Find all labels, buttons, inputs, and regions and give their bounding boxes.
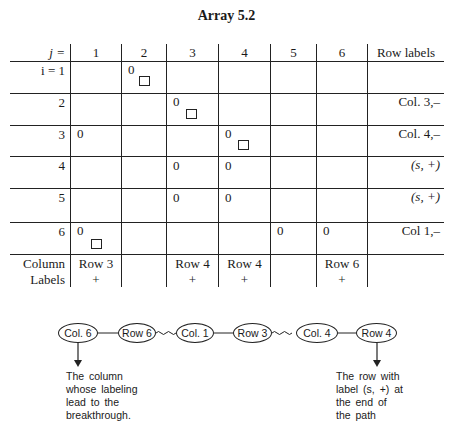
- end-note-line: the end of: [336, 396, 403, 409]
- start-note-line: breakthrough.: [66, 409, 137, 422]
- end-note: The row with label (s, +) at the end of …: [336, 370, 403, 422]
- end-note-line: label (s, +) at: [336, 383, 403, 396]
- path-node-row-4: Row 4: [356, 323, 397, 343]
- path-node-col-4: Col. 4: [296, 323, 338, 343]
- start-note-line: whose labeling: [66, 383, 137, 396]
- path-node-row-6: Row 6: [118, 323, 156, 343]
- path-node-col-6: Col. 6: [58, 323, 98, 343]
- path-node-row-3: Row 3: [233, 323, 272, 343]
- path-node-col-1: Col. 1: [176, 323, 214, 343]
- end-note-line: the path: [336, 409, 403, 422]
- start-note-line: The column: [66, 370, 137, 383]
- start-note-line: lead to the: [66, 396, 137, 409]
- end-note-line: The row with: [336, 370, 403, 383]
- start-note: The column whose labeling lead to the br…: [66, 370, 137, 422]
